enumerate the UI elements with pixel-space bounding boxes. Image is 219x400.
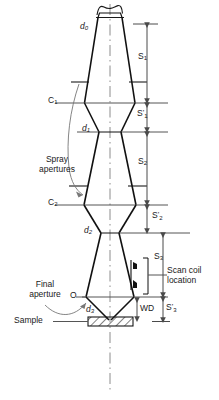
label-d2: d2 <box>84 226 92 236</box>
spray-apertures-leader <box>68 84 83 195</box>
label-d1: d1 <box>82 124 90 134</box>
sample-block <box>88 317 133 326</box>
figure-canvas: d0 C1 d1 Spray apertures C2 d2 Final ape… <box>0 0 219 400</box>
scan-coil-symbol <box>131 258 148 294</box>
label-dim-S3-prime: S'3 <box>166 302 177 314</box>
ray-diagram-svg <box>0 0 219 400</box>
label-dim-S2: S2 <box>138 157 147 167</box>
final-aperture-leader <box>45 303 86 315</box>
label-d3: d3 <box>86 305 94 315</box>
label-dim-S2-prime: S'2 <box>152 210 163 222</box>
label-final-aperture: Final aperture <box>12 280 78 300</box>
label-dim-S1: S1 <box>138 52 147 62</box>
label-dim-S3: S3 <box>154 252 163 262</box>
label-sample: Sample <box>14 316 43 326</box>
label-wd: WD <box>140 304 154 314</box>
dimension-S1 <box>133 24 158 101</box>
label-o-aperture: O <box>70 291 77 301</box>
label-spray-apertures: Spray apertures <box>20 155 94 175</box>
label-c1: C1 <box>48 96 57 106</box>
label-c2: C2 <box>48 198 57 208</box>
label-d0: d0 <box>80 22 88 32</box>
label-dim-S1-prime: S'1 <box>137 108 148 120</box>
label-scan-coil-location: Scan coil location <box>167 266 219 286</box>
